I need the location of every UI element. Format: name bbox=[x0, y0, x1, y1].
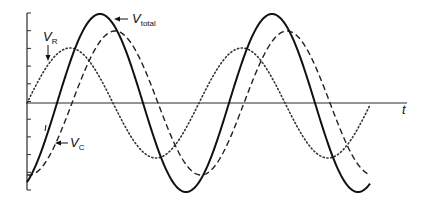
down-arrow-icon bbox=[45, 125, 46, 131]
v-r-arrowhead-icon bbox=[46, 55, 51, 61]
rc-voltage-diagram: t Vtotal VR VC bbox=[0, 0, 429, 205]
v-total-arrowhead-icon bbox=[114, 17, 120, 22]
v-total-annotation: Vtotal bbox=[114, 11, 156, 28]
x-axis-label: t bbox=[402, 102, 407, 117]
v-c-label: VC bbox=[70, 135, 85, 152]
v-c-annotation: VC bbox=[55, 135, 85, 152]
v-total-lower-arrow bbox=[45, 125, 46, 131]
v-total-label: Vtotal bbox=[132, 11, 156, 28]
v-r-label: VR bbox=[43, 29, 58, 46]
v-c-arrowhead-icon bbox=[55, 141, 61, 146]
